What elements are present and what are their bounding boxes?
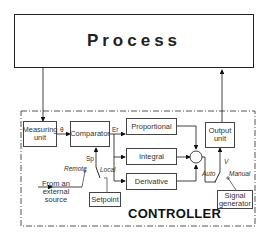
comparator-block: Comparator bbox=[70, 121, 110, 147]
process-label: Process bbox=[87, 37, 181, 45]
signal-generator-label: Signal generator bbox=[218, 192, 252, 208]
integral-block: Integral bbox=[126, 148, 177, 165]
integral-label: Integral bbox=[139, 153, 164, 161]
controller-title: CONTROLLER bbox=[128, 206, 221, 221]
measured-signal-label: θ bbox=[60, 126, 64, 133]
measuring-unit-block: Measuring unit bbox=[23, 121, 57, 147]
proportional-label: Proportional bbox=[131, 123, 171, 131]
derivative-block: Derivative bbox=[126, 173, 177, 190]
setpoint-label: Setpoint bbox=[91, 196, 119, 204]
setpoint-signal-label: Sp bbox=[86, 155, 94, 162]
external-source-label: From an external source bbox=[32, 180, 80, 204]
measuring-unit-label: Measuring unit bbox=[22, 126, 57, 142]
setpoint-block: Setpoint bbox=[89, 192, 121, 207]
output-signal-label: V bbox=[224, 158, 228, 165]
remote-switch-label: Remote bbox=[64, 165, 87, 172]
manual-switch-label: Manual bbox=[229, 170, 250, 177]
process-block: Process bbox=[14, 14, 254, 68]
derivative-label: Derivative bbox=[135, 178, 168, 186]
proportional-block: Proportional bbox=[126, 118, 177, 135]
local-switch-label: Local bbox=[100, 166, 116, 173]
comparator-label: Comparator bbox=[70, 130, 110, 138]
output-unit-label: Output unit bbox=[206, 127, 234, 143]
signal-generator-block: Signal generator bbox=[217, 190, 253, 209]
summing-junction bbox=[190, 151, 202, 163]
auto-switch-label: Auto bbox=[202, 170, 215, 177]
error-signal-label: Er bbox=[112, 126, 119, 133]
output-unit-block: Output unit bbox=[205, 122, 235, 148]
